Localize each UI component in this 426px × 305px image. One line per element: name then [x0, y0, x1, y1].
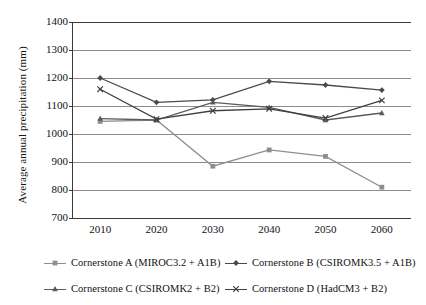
gridline — [73, 218, 411, 219]
y-axis-tick-label: 1300 — [28, 44, 68, 55]
legend-label-D: Cornerstone D (HadCM3 + B2) — [252, 283, 387, 295]
x-axis-tick-label: 2040 — [246, 223, 292, 236]
y-axis-tick — [69, 218, 73, 219]
y-axis-tick-label: 1200 — [28, 72, 68, 83]
legend-label-C: Cornerstone C (CSIROMK2 + B2) — [71, 283, 220, 295]
y-axis-tick-label: 1100 — [28, 100, 68, 111]
chart-legend: Cornerstone A (MIROC3.2 + A1B)Cornerston… — [30, 250, 422, 302]
y-axis-tick-label: 800 — [28, 184, 68, 195]
y-axis-tick — [69, 78, 73, 79]
legend-entry-D[interactable]: Cornerstone D (HadCM3 + B2) — [225, 279, 422, 299]
gridline — [73, 50, 411, 51]
y-axis-tick — [69, 162, 73, 163]
y-axis-tick-label: 1400 — [28, 16, 68, 27]
x-axis-tick-label: 2050 — [303, 223, 349, 236]
data-point-square-marker — [53, 261, 58, 266]
legend-swatch-triangle-icon — [44, 283, 66, 295]
x-axis-tick-label: 2020 — [134, 223, 180, 236]
gridline — [73, 22, 411, 23]
legend-entry-B[interactable]: Cornerstone B (CSIROMK3.5 + A1B) — [225, 253, 422, 273]
legend-label-B: Cornerstone B (CSIROMK3.5 + A1B) — [252, 257, 416, 269]
y-axis-tick-label: 900 — [28, 156, 68, 167]
legend-entry-A[interactable]: Cornerstone A (MIROC3.2 + A1B) — [30, 253, 225, 273]
y-axis-tick-label: 700 — [28, 212, 68, 223]
data-point-diamond-marker — [233, 260, 239, 266]
precipitation-line-chart: Average annual precipitation (mm) 700800… — [0, 0, 426, 305]
y-axis-tick — [69, 22, 73, 23]
x-axis-tick-label: 2030 — [190, 223, 236, 236]
y-axis-tick — [69, 106, 73, 107]
plot-area — [72, 22, 410, 218]
y-axis-tick-label: 1000 — [28, 128, 68, 139]
y-axis-tick — [69, 190, 73, 191]
legend-swatch-cross-icon — [225, 283, 247, 295]
gridline — [73, 162, 411, 163]
legend-entry-C[interactable]: Cornerstone C (CSIROMK2 + B2) — [30, 279, 225, 299]
x-axis-tick-label: 2060 — [359, 223, 405, 236]
data-point-cross-marker — [233, 286, 239, 292]
y-axis-tick — [69, 50, 73, 51]
gridline — [73, 134, 411, 135]
x-axis-tick-labels: 201020202030204020502060 — [72, 223, 410, 241]
gridline — [73, 190, 411, 191]
x-axis-tick-label: 2010 — [77, 223, 123, 236]
legend-swatch-square-icon — [44, 257, 66, 269]
gridline — [73, 106, 411, 107]
legend-swatch-diamond-icon — [225, 257, 247, 269]
y-axis-tick — [69, 134, 73, 135]
legend-label-A: Cornerstone A (MIROC3.2 + A1B) — [71, 257, 220, 269]
data-point-triangle-marker — [52, 286, 58, 291]
gridline — [73, 78, 411, 79]
